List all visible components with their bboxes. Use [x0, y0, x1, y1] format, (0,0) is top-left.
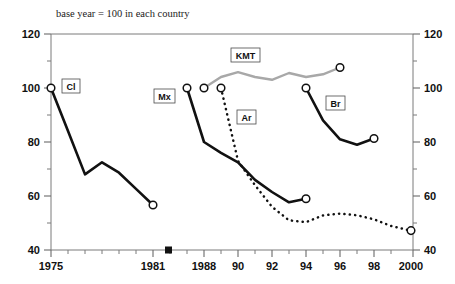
x-tick-92: 92 [266, 260, 278, 272]
x-tick-98: 98 [368, 260, 380, 272]
series-marker-mx-start [183, 84, 191, 92]
x-tick-1975: 1975 [39, 260, 63, 272]
y-right-tick-80: 80 [424, 136, 436, 148]
series-label-kmt: KMT [231, 48, 260, 62]
series-marker-br-start [302, 84, 310, 92]
y-right-tick-40: 40 [424, 244, 436, 256]
axis-frame [51, 34, 413, 250]
series-line-kmt [204, 68, 340, 89]
x-axis-labels: 1975 1981 1988 90 92 94 96 98 2000 [39, 260, 423, 272]
y-right-tick-100: 100 [424, 82, 442, 94]
chart-subtitle: base year = 100 in each country [56, 8, 190, 19]
x-tick-90: 90 [232, 260, 244, 272]
series-marker-ar-start [217, 84, 225, 92]
y-left-tick-80: 80 [28, 136, 40, 148]
series-line-mx [187, 88, 306, 202]
series-line-cl [51, 88, 153, 205]
y-left-tick-60: 60 [28, 190, 40, 202]
chart-container: base year = 100 in each country 120 [0, 0, 455, 284]
axis-break-marker [165, 247, 172, 254]
x-tick-1981: 1981 [141, 260, 165, 272]
x-tick-2000: 2000 [399, 260, 423, 272]
y-axis-right-ticks [413, 34, 420, 250]
y-left-tick-40: 40 [28, 244, 40, 256]
x-tick-1988: 1988 [192, 260, 216, 272]
series-label-mx: Mx [154, 89, 175, 103]
x-tick-96: 96 [334, 260, 346, 272]
series-label-ar-text: Ar [241, 113, 251, 123]
series-marker-ar-end [407, 227, 415, 235]
series-label-br: Br [326, 96, 345, 110]
y-left-tick-120: 120 [22, 28, 40, 40]
series-label-ar: Ar [237, 110, 256, 124]
y-axis-right-labels: 120 100 80 60 40 [424, 28, 442, 256]
y-right-tick-60: 60 [424, 190, 436, 202]
series-marker-br-end [370, 135, 378, 143]
x-axis-ticks [51, 250, 413, 257]
series-marker-cl-end [149, 201, 157, 209]
series-label-mx-text: Mx [158, 92, 171, 102]
series-marker-kmt-start [200, 84, 208, 92]
series-label-kmt-text: KMT [236, 51, 256, 61]
series-label-br-text: Br [330, 99, 340, 109]
x-tick-94: 94 [300, 260, 313, 272]
series-marker-kmt-end [336, 64, 344, 72]
series-label-cl-text: Cl [67, 82, 76, 92]
y-left-tick-100: 100 [22, 82, 40, 94]
series-label-cl: Cl [62, 79, 80, 93]
y-axis-left-ticks [44, 34, 51, 250]
y-axis-left-labels: 120 100 80 60 40 [22, 28, 40, 256]
line-chart: base year = 100 in each country 120 [0, 0, 455, 284]
y-right-tick-120: 120 [424, 28, 442, 40]
series-marker-cl-start [47, 84, 55, 92]
series-marker-mx-end [302, 195, 310, 203]
